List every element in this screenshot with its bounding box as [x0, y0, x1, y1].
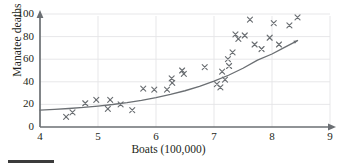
y-tick-label: 60 — [10, 52, 34, 64]
x-tick-label: 6 — [147, 130, 165, 142]
x-tick-label: 8 — [263, 130, 281, 142]
y-tick-label: 100 — [10, 7, 34, 19]
y-tick-label: 80 — [10, 30, 34, 42]
y-tick-label: 20 — [10, 97, 34, 109]
y-tick-label: 0 — [10, 120, 34, 132]
x-tick-label: 9 — [321, 130, 337, 142]
data-points — [64, 15, 300, 119]
x-axis-label: Boats (100,000) — [0, 143, 337, 155]
y-tick-label: 40 — [10, 75, 34, 87]
chart-container: Manatee deaths Boats (100,000) 456789020… — [0, 0, 337, 168]
x-tick-label: 5 — [89, 130, 107, 142]
axes — [37, 10, 336, 130]
gridlines — [40, 14, 330, 127]
footer-rule — [8, 160, 54, 163]
x-tick-label: 7 — [205, 130, 223, 142]
